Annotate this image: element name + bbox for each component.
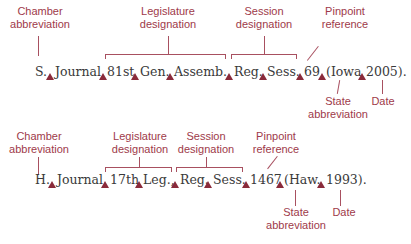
label-line: reference <box>253 143 299 156</box>
label-line: Date <box>371 95 394 108</box>
label-line: State <box>266 206 326 219</box>
label-pinpoint-reference: Pinpoint reference <box>253 130 299 156</box>
space-triangle-icon <box>99 73 107 80</box>
space-triangle-icon <box>48 181 56 188</box>
bracket-line <box>296 54 297 59</box>
label-line: Legislature <box>112 130 168 143</box>
connector-line <box>337 80 340 94</box>
label-line: reference <box>322 18 368 31</box>
bracket-line <box>225 54 226 59</box>
label-line: Session <box>178 130 234 143</box>
token-session: Sess. <box>213 172 246 188</box>
label-session-designation: Session designation <box>178 130 234 156</box>
space-triangle-icon <box>135 181 143 188</box>
label-pinpoint-reference: Pinpoint reference <box>322 5 368 31</box>
connector-line <box>307 46 319 61</box>
space-triangle-icon <box>296 73 304 80</box>
label-line: Chamber <box>9 130 69 143</box>
label-line: designation <box>140 18 196 31</box>
label-line: designation <box>112 143 168 156</box>
label-line: State <box>308 95 368 108</box>
label-legislature-designation: Legislature designation <box>112 130 168 156</box>
label-line: abbreviation <box>9 143 69 156</box>
space-triangle-icon <box>276 181 284 188</box>
label-line: Session <box>236 5 292 18</box>
space-triangle-icon <box>166 73 174 80</box>
space-triangle-icon <box>259 73 267 80</box>
label-line: Chamber <box>10 5 70 18</box>
space-triangle-icon <box>46 73 54 80</box>
token-legislature-type: Leg., <box>143 172 175 188</box>
bracket-line <box>231 54 297 55</box>
connector-line <box>267 156 278 169</box>
bracket-line <box>168 36 169 54</box>
label-state-abbreviation: State abbreviation <box>308 95 368 121</box>
bracket-line <box>231 54 232 59</box>
token-assembly: Assemb., <box>174 64 231 80</box>
bracket-line <box>176 167 177 172</box>
bracket-line <box>105 54 225 55</box>
space-triangle-icon <box>101 181 109 188</box>
label-date: Date <box>332 206 355 219</box>
bracket-line <box>176 167 243 168</box>
connector-line <box>295 190 296 206</box>
space-triangle-icon <box>204 181 212 188</box>
connector-line <box>340 190 341 206</box>
bracket-line <box>105 54 106 59</box>
token-journal: Journal, <box>57 172 107 188</box>
bracket-line <box>105 167 172 168</box>
space-triangle-icon <box>318 73 326 80</box>
bracket-line <box>206 157 207 167</box>
label-date: Date <box>371 95 394 108</box>
space-triangle-icon <box>225 73 233 80</box>
token-session: Sess. <box>267 64 300 80</box>
token-date: 2005). <box>366 64 407 80</box>
label-line: abbreviation <box>266 219 326 232</box>
token-date: 1993). <box>326 172 367 188</box>
label-session-designation: Session designation <box>236 5 292 31</box>
token-journal: Journal, <box>55 64 105 80</box>
connector-line <box>382 80 383 94</box>
label-line: designation <box>236 18 292 31</box>
space-triangle-icon <box>131 73 139 80</box>
token-state: (Iowa <box>326 64 362 80</box>
connector-line <box>38 36 39 56</box>
label-line: Pinpoint <box>322 5 368 18</box>
space-triangle-icon <box>358 73 366 80</box>
bracket-line <box>139 157 140 167</box>
label-legislature-designation: Legislature designation <box>140 5 196 31</box>
label-line: Legislature <box>140 5 196 18</box>
label-chamber-abbreviation: Chamber abbreviation <box>9 130 69 156</box>
token-state: (Haw. <box>284 172 320 188</box>
space-triangle-icon <box>317 181 325 188</box>
bracket-line <box>264 36 265 54</box>
label-state-abbreviation: State abbreviation <box>266 206 326 232</box>
space-triangle-icon <box>242 181 250 188</box>
label-line: designation <box>178 143 234 156</box>
label-line: abbreviation <box>10 18 70 31</box>
label-line: abbreviation <box>308 108 368 121</box>
token-legislature-type: Gen. <box>140 64 169 80</box>
space-triangle-icon <box>171 181 179 188</box>
label-chamber-abbreviation: Chamber abbreviation <box>10 5 70 31</box>
label-line: Date <box>332 206 355 219</box>
label-line: Pinpoint <box>253 130 299 143</box>
